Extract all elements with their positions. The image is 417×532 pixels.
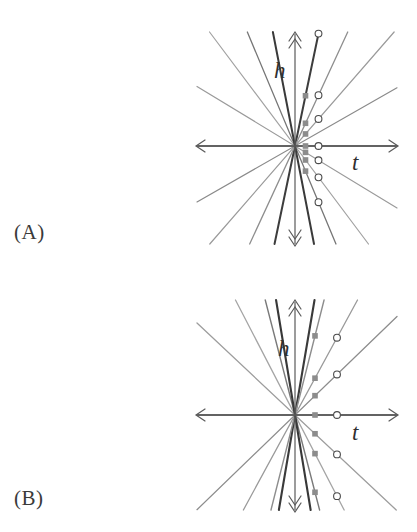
square-marker (312, 489, 318, 495)
square-marker (303, 168, 309, 174)
pencil-line (235, 300, 344, 510)
square-marker (303, 131, 309, 137)
figure-label-a: (A) (14, 220, 45, 245)
pencil-line (250, 32, 348, 244)
line-pencil-a (197, 32, 397, 244)
pencil-line (210, 32, 394, 244)
axis-label-t-b: t (352, 420, 359, 445)
pencil-line (197, 323, 396, 510)
pencil-line (243, 300, 357, 510)
axis-label-t-a: t (352, 150, 359, 175)
square-markers-b (312, 333, 318, 495)
pencil-line (271, 300, 324, 510)
circle-marker (315, 143, 322, 150)
diagram-panel-b: h t (186, 288, 408, 528)
spacetime-diagram-a: h t (186, 18, 408, 264)
circle-marker (334, 334, 341, 341)
circle-marker (315, 30, 322, 37)
line-pencil-b (197, 300, 397, 510)
square-marker (312, 333, 318, 339)
pencil-line (197, 316, 397, 509)
square-marker (312, 431, 318, 437)
square-marker (303, 157, 309, 163)
square-marker (312, 393, 318, 399)
circle-marker (334, 371, 341, 378)
square-marker (312, 451, 318, 457)
circle-marker (315, 92, 322, 99)
pencil-line (210, 32, 369, 244)
square-marker (303, 93, 309, 99)
circle-marker (315, 157, 322, 164)
circle-marker (334, 412, 341, 419)
square-marker (312, 375, 318, 381)
circle-marker (315, 116, 322, 123)
circle-marker (315, 199, 322, 206)
circle-markers-a (315, 30, 322, 205)
circle-marker (315, 174, 322, 181)
square-marker (312, 412, 318, 418)
pencil-line (247, 32, 336, 244)
spacetime-diagram-b: h t (186, 288, 408, 528)
axis-label-h-b: h (278, 336, 290, 361)
circle-marker (334, 451, 341, 458)
axis-label-h-a: h (274, 58, 286, 83)
circle-markers-b (334, 334, 341, 499)
diagram-panel-a: h t (186, 18, 408, 264)
square-marker (303, 143, 309, 149)
square-marker (303, 150, 309, 156)
square-marker (303, 120, 309, 126)
figure-label-b: (B) (14, 486, 44, 511)
circle-marker (334, 493, 341, 500)
